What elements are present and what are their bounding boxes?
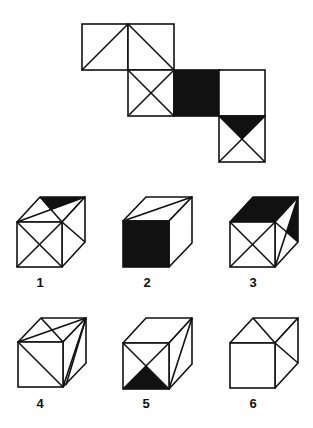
cube-option-3[interactable] <box>230 197 298 267</box>
cube-options <box>17 197 298 389</box>
cube-option-6[interactable] <box>230 318 298 388</box>
option-label-3: 3 <box>249 276 256 289</box>
net-face-f <box>219 116 265 162</box>
net-face-b <box>128 24 174 70</box>
net-face-d <box>174 70 220 116</box>
cube-option-2[interactable] <box>123 197 192 267</box>
option-label-4: 4 <box>36 397 43 410</box>
option-label-6: 6 <box>249 397 256 410</box>
net-face-a <box>82 24 128 70</box>
option-label-5: 5 <box>142 397 149 410</box>
option-label-2: 2 <box>143 276 150 289</box>
net-face-c <box>128 70 174 116</box>
front-face <box>123 221 169 267</box>
cube-option-4[interactable] <box>18 318 86 387</box>
cube-option-5[interactable] <box>123 318 192 389</box>
front-face <box>230 343 275 388</box>
option-label-1: 1 <box>36 276 43 289</box>
cube-net <box>82 24 265 162</box>
net-face-e <box>219 70 265 116</box>
cube-net-puzzle-figure <box>0 0 313 428</box>
cube-option-1[interactable] <box>17 197 85 267</box>
